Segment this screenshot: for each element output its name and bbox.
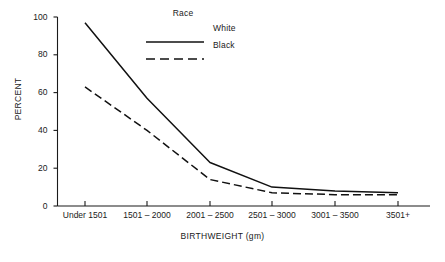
y-axis-title: PERCENT [13, 64, 23, 134]
chart-legend: Race White Black [140, 8, 260, 57]
legend-item-black: Black [140, 40, 260, 57]
x-tick-label: 3501+ [358, 210, 438, 220]
y-tick-label: 60 [22, 87, 48, 97]
legend-title: Race [140, 8, 226, 18]
legend-label-black: Black [213, 40, 235, 50]
data-series-black [85, 87, 398, 195]
y-tick-label: 100 [22, 12, 48, 22]
y-tick-label: 0 [22, 201, 48, 211]
y-tick-label: 80 [22, 49, 48, 59]
legend-label-white: White [213, 23, 236, 33]
chart-figure: PERCENT BIRTHWEIGHT (gm) 100806040200 Un… [0, 0, 445, 262]
legend-item-white: White [140, 23, 260, 40]
x-axis-title: BIRTHWEIGHT (gm) [0, 231, 445, 241]
legend-swatch-dashed-icon [146, 46, 204, 48]
y-tick-label: 40 [22, 125, 48, 135]
y-tick-label: 20 [22, 163, 48, 173]
legend-swatch-solid-icon [146, 29, 204, 31]
